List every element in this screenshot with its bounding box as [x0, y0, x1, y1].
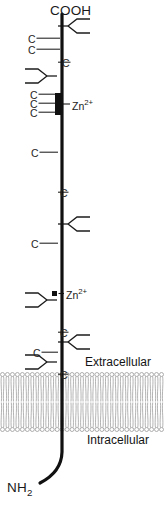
- lipid-head: [150, 373, 154, 377]
- intracellular-label: Intracellular: [87, 434, 149, 446]
- lipid-head: [75, 373, 79, 377]
- lipid-head: [150, 428, 154, 432]
- lipid-head: [90, 428, 94, 432]
- glycan-branch: [68, 342, 90, 349]
- lipid-head: [105, 373, 109, 377]
- lipid-head: [65, 428, 69, 432]
- cysteine-label: C: [60, 370, 68, 381]
- lipid-head: [35, 373, 39, 377]
- glycan-branch: [25, 300, 47, 307]
- lipid-head: [80, 373, 84, 377]
- lipid-head: [155, 428, 159, 432]
- lipid-head: [135, 428, 139, 432]
- zinc-ion-label: Zn2+: [72, 99, 93, 111]
- cysteine-label: C: [31, 148, 39, 159]
- lipid-head: [50, 373, 54, 377]
- cysteine-label: C: [28, 45, 36, 56]
- lipid-head: [130, 373, 134, 377]
- lipid-head: [25, 428, 29, 432]
- cysteine-tick-marks: [37, 38, 71, 374]
- lipid-head: [15, 428, 19, 432]
- lipid-head: [40, 428, 44, 432]
- lipid-head: [90, 373, 94, 377]
- cysteine-label: C: [28, 34, 36, 45]
- lipid-head: [15, 373, 19, 377]
- glycan-branch: [25, 76, 47, 83]
- extracellular-label: Extracellular: [85, 356, 151, 368]
- c-terminus-label: COOH: [50, 4, 91, 18]
- lipid-head: [30, 373, 34, 377]
- zinc-charge-superscript: 2+: [78, 287, 87, 296]
- lipid-head: [135, 373, 139, 377]
- cysteine-label: C: [30, 108, 38, 119]
- glycan-branch: [25, 362, 47, 369]
- lipid-head: [115, 428, 119, 432]
- lipid-head: [25, 373, 29, 377]
- lipid-head: [20, 428, 24, 432]
- glycan-branch: [68, 26, 90, 33]
- cysteine-label: C: [62, 58, 70, 69]
- lipid-head: [5, 428, 9, 432]
- lipid-head: [85, 428, 89, 432]
- lipid-head: [125, 373, 129, 377]
- lipid-head: [100, 373, 104, 377]
- lipid-head: [50, 428, 54, 432]
- lipid-head: [130, 428, 134, 432]
- lipid-head: [55, 428, 59, 432]
- zinc-marker: [55, 93, 61, 115]
- lipid-head: [20, 373, 24, 377]
- zinc-marker: [52, 291, 57, 296]
- glycan-branch: [68, 224, 90, 231]
- lipid-head: [160, 428, 164, 432]
- lipid-head: [110, 373, 114, 377]
- glycosylation-markers: [25, 19, 90, 369]
- lipid-head: [80, 428, 84, 432]
- lipid-head: [110, 428, 114, 432]
- lipid-head: [155, 373, 159, 377]
- lipid-head: [30, 428, 34, 432]
- glycan-branch: [68, 217, 90, 224]
- lipid-head: [35, 428, 39, 432]
- zinc-element-symbol: Zn: [66, 289, 78, 301]
- lipid-head: [140, 428, 144, 432]
- lipid-head: [10, 428, 14, 432]
- lipid-head: [145, 373, 149, 377]
- glycan-branch: [25, 293, 47, 300]
- lipid-head: [140, 373, 144, 377]
- glycan-branch: [25, 69, 47, 76]
- cysteine-label: C: [60, 328, 68, 339]
- lipid-head: [5, 373, 9, 377]
- lipid-head: [75, 428, 79, 432]
- lipid-head: [0, 428, 4, 432]
- lipid-head: [10, 373, 14, 377]
- lipid-head: [120, 373, 124, 377]
- n-terminus-subscript: 2: [27, 487, 33, 498]
- lipid-head: [45, 373, 49, 377]
- lipid-head: [95, 428, 99, 432]
- lipid-head: [105, 428, 109, 432]
- lipid-bilayer: [0, 373, 163, 432]
- n-terminus-text: NH: [7, 480, 27, 495]
- n-terminus-label: NH2: [7, 481, 33, 497]
- cysteine-label: C: [31, 239, 39, 250]
- lipid-head: [145, 428, 149, 432]
- cysteine-label: C: [33, 348, 41, 359]
- lipid-head: [85, 373, 89, 377]
- zinc-charge-superscript: 2+: [84, 98, 93, 107]
- lipid-head: [100, 428, 104, 432]
- lipid-head: [115, 373, 119, 377]
- lipid-head: [0, 373, 4, 377]
- lipid-head: [70, 373, 74, 377]
- lipid-head: [125, 428, 129, 432]
- lipid-head: [95, 373, 99, 377]
- zinc-ion-label: Zn2+: [66, 288, 87, 300]
- lipid-head: [45, 428, 49, 432]
- cysteine-label: C: [60, 188, 68, 199]
- lipid-head: [40, 373, 44, 377]
- membrane-protein-topology-diagram: COOH NH2 Extracellular Intracellular CCC…: [0, 0, 164, 509]
- lipid-head: [120, 428, 124, 432]
- glycan-branch: [68, 19, 90, 26]
- lipid-head: [70, 428, 74, 432]
- zinc-element-symbol: Zn: [72, 100, 84, 112]
- lipid-head: [160, 373, 164, 377]
